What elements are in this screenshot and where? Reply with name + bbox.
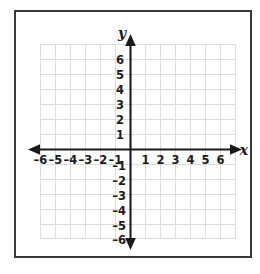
y-tick-label: 6 [116, 53, 124, 67]
x-tick-label: 5 [201, 153, 209, 167]
y-tick-label: 5 [116, 68, 124, 82]
coordinate-plane: x y –6 –5 –4 –3 –2 –1 1 2 3 4 5 [16, 12, 254, 260]
x-tick-label: 6 [216, 153, 224, 167]
y-tick-label: –3 [112, 189, 126, 203]
y-tick-label: –6 [112, 233, 126, 247]
x-tick-label: 4 [186, 153, 194, 167]
y-tick-labels-negative: –1 –2 –3 –4 –5 –6 [112, 159, 126, 247]
y-tick-label: –4 [112, 204, 126, 218]
x-tick-label: –2 [94, 153, 108, 167]
plot-frame: x y –6 –5 –4 –3 –2 –1 1 2 3 4 5 [14, 10, 252, 258]
x-tick-label: 3 [171, 153, 179, 167]
y-tick-labels-positive: 6 5 4 3 2 1 [116, 53, 124, 142]
x-tick-label: 1 [141, 153, 149, 167]
x-tick-label: –4 [64, 153, 78, 167]
y-tick-label: –1 [112, 159, 126, 173]
y-axis-arrow-down [125, 238, 136, 250]
x-tick-label: –3 [79, 153, 93, 167]
y-axis-arrow-up [125, 34, 136, 46]
y-tick-label: 4 [116, 83, 124, 97]
x-axis-label: x [239, 142, 249, 158]
x-tick-label: 2 [156, 153, 164, 167]
coordinate-plane-svg: x y –6 –5 –4 –3 –2 –1 1 2 3 4 5 [16, 12, 254, 260]
y-axis [125, 34, 136, 250]
figure-root: x y –6 –5 –4 –3 –2 –1 1 2 3 4 5 [0, 0, 260, 274]
grid-vertical-lines [41, 44, 236, 238]
y-tick-label: –2 [112, 174, 126, 188]
x-tick-labels-negative: –6 –5 –4 –3 –2 –1 [34, 153, 123, 167]
y-tick-label: 3 [116, 98, 124, 112]
y-tick-label: 2 [116, 113, 124, 127]
x-tick-label: –6 [34, 153, 48, 167]
grid-horizontal-lines [40, 45, 236, 239]
y-tick-label: –5 [112, 219, 126, 233]
x-tick-label: –5 [49, 153, 63, 167]
y-axis-label: y [117, 25, 127, 41]
y-tick-label: 1 [116, 128, 124, 142]
